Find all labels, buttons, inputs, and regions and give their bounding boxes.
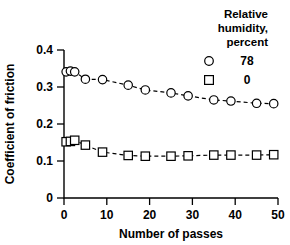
data-point: [124, 81, 132, 89]
friction-chart-figure: 0 0.1 0.2 0.3 0.4 0 10 20 30 40 50 Numbe…: [0, 0, 290, 245]
x-tick-label-30: 30: [186, 208, 200, 222]
legend-title-line-1: Relative: [224, 8, 268, 20]
data-point: [184, 92, 192, 100]
legend-square-icon: [205, 76, 214, 85]
data-point: [227, 151, 235, 159]
data-point: [167, 89, 175, 97]
data-point: [252, 99, 260, 107]
legend-circle-icon: [205, 57, 214, 66]
data-point: [167, 152, 175, 160]
data-point: [98, 148, 106, 156]
data-point: [71, 136, 79, 144]
data-point: [210, 151, 218, 159]
x-tick-marks: [64, 198, 278, 205]
y-tick-label-1: 0.1: [36, 154, 53, 168]
y-axis-title: Coefficient of friction: [3, 64, 17, 185]
data-point: [71, 68, 79, 76]
legend: Relative humidity, percent 78 0: [205, 8, 269, 87]
y-tick-label-4: 0.4: [36, 43, 53, 57]
data-point: [98, 75, 106, 83]
legend-title-line-2: humidity,: [218, 22, 268, 34]
legend-label-78: 78: [240, 54, 254, 68]
x-tick-label-40: 40: [229, 208, 243, 222]
data-point: [270, 99, 278, 107]
data-point: [141, 86, 149, 94]
y-tick-label-3: 0.3: [36, 80, 53, 94]
x-axis-title: Number of passes: [119, 227, 223, 241]
legend-label-0: 0: [244, 73, 251, 87]
x-tick-label-20: 20: [143, 208, 157, 222]
data-point: [141, 152, 149, 160]
series-line-0: [66, 71, 274, 104]
data-point: [227, 97, 235, 105]
x-tick-label-0: 0: [61, 208, 68, 222]
data-point: [81, 141, 89, 149]
chart-svg: 0 0.1 0.2 0.3 0.4 0 10 20 30 40 50 Numbe…: [0, 0, 290, 245]
data-point: [184, 152, 192, 160]
x-tick-label-50: 50: [271, 208, 285, 222]
y-tick-label-2: 0.2: [36, 117, 53, 131]
data-point: [270, 151, 278, 159]
data-point: [252, 151, 260, 159]
data-point: [124, 151, 132, 159]
legend-title-line-3: percent: [226, 36, 268, 48]
data-point: [81, 75, 89, 83]
y-tick-label-0: 0: [46, 191, 53, 205]
data-point: [210, 96, 218, 104]
x-tick-label-10: 10: [100, 208, 114, 222]
